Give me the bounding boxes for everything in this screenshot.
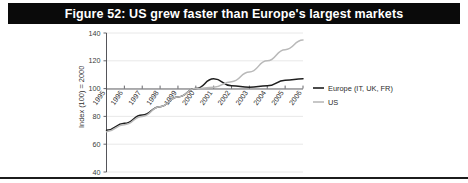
line-chart: 406080100120140 Index (100) = 2000 19951… [0, 24, 468, 176]
x-tick-label: 2006 [287, 89, 304, 107]
y-tick-label: 40 [93, 168, 101, 176]
y-tick-label: 80 [93, 112, 101, 121]
x-tick-label: 2003 [233, 89, 250, 107]
legend-label: Europe (IT, UK, FR) [328, 84, 393, 93]
page-title: Figure 52: US grew faster than Europe's … [65, 7, 403, 21]
x-axis-tick-labels: 1995199619971998199920002001200220032004… [91, 89, 304, 107]
x-tick-label: 2005 [269, 89, 286, 107]
footer-rule [0, 177, 468, 179]
y-axis-title: Index (100) = 2000 [77, 66, 86, 128]
chart-figure: 406080100120140 Index (100) = 2000 19951… [0, 24, 468, 176]
y-tick-label: 140 [89, 29, 101, 38]
y-tick-label: 120 [89, 56, 101, 65]
legend-label: US [328, 98, 338, 107]
chart-series [107, 40, 304, 132]
x-tick-label: 1998 [144, 89, 161, 107]
x-tick-label: 2002 [216, 89, 233, 107]
x-tick-label: 2004 [251, 89, 268, 107]
x-tick-label: 1997 [126, 89, 143, 107]
chart-legend: Europe (IT, UK, FR)US [313, 84, 393, 107]
x-tick-label: 1996 [108, 89, 125, 107]
series-line [107, 40, 304, 132]
x-tick-label: 2001 [198, 89, 215, 107]
y-tick-label: 60 [93, 140, 101, 149]
figure-title-banner: Figure 52: US grew faster than Europe's … [8, 3, 460, 24]
